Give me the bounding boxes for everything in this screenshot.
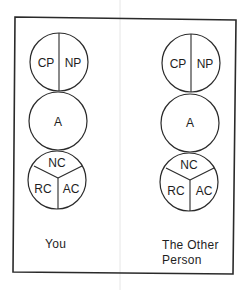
column-other-person: CP NP A NC RC AC The Other Person [160,34,220,267]
child-circle: NC RC AC [160,153,218,211]
label-nc: NC [48,156,66,170]
label-cp: CP [170,57,187,71]
label-ac: AC [196,184,213,198]
label-cp: CP [38,56,55,70]
label-a: A [54,115,62,129]
label-np: NP [65,56,82,70]
parent-circle: CP NP [30,33,88,91]
label-np: NP [197,57,214,71]
label-rc: RC [167,184,185,198]
adult-circle: A [29,92,87,150]
column-you: CP NP A NC RC AC You [28,33,88,251]
ego-state-diagram: CP NP A NC RC AC You CP NP [0,0,245,290]
label-rc: RC [34,182,52,196]
caption-other-line1: The Other [162,238,219,252]
caption-you: You [45,237,66,251]
caption-other-line2: Person [162,253,202,267]
label-nc: NC [180,158,198,172]
label-a: A [186,116,194,130]
label-ac: AC [63,182,80,196]
child-circle: NC RC AC [28,151,86,209]
adult-circle: A [161,94,219,152]
parent-circle: CP NP [162,34,220,92]
